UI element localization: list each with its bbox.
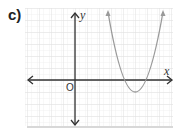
grid-frame-shadow <box>27 126 173 128</box>
x-axis-label: x <box>163 64 170 78</box>
coordinate-graph: y x O <box>0 0 183 133</box>
origin-label: O <box>66 82 74 93</box>
y-axis-label: y <box>79 8 86 22</box>
